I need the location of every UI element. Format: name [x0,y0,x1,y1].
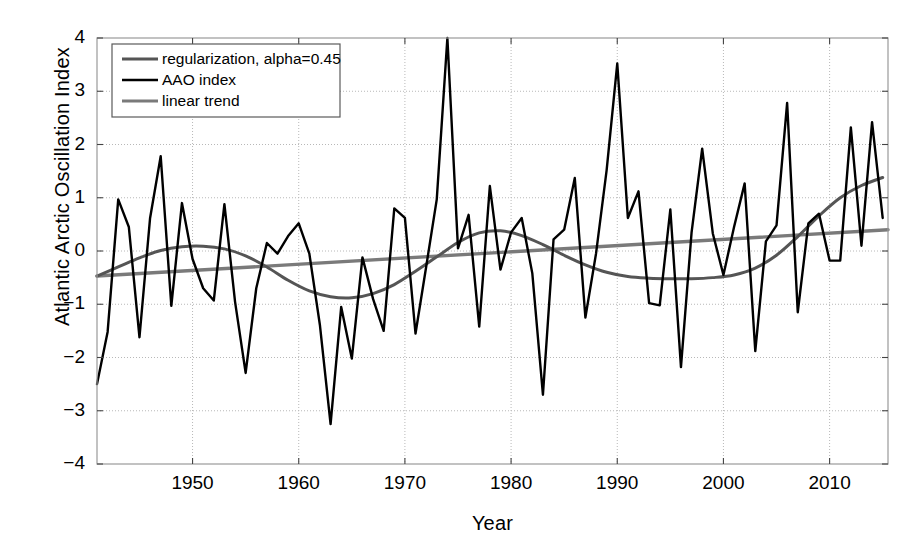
x-tick-label: 1980 [471,472,551,494]
y-tick-label: 2 [45,133,85,155]
y-tick-label: −3 [45,399,85,421]
legend-entry-label: linear trend [162,92,240,110]
legend-entry-label: AAO index [162,71,236,89]
x-tick-label: 2000 [683,472,763,494]
y-tick-label: 4 [45,26,85,48]
x-tick-label: 1960 [259,472,339,494]
plot-canvas [0,0,921,551]
y-tick-label: −1 [45,292,85,314]
y-tick-label: −4 [45,452,85,474]
x-axis-label: Year [472,512,513,534]
x-tick-label: 1990 [577,472,657,494]
x-tick-label: 1970 [365,472,445,494]
legend-entry-label: regularization, alpha=0.45 [162,50,341,68]
y-tick-label: −2 [45,346,85,368]
y-tick-label: 1 [45,186,85,208]
y-tick-label: 3 [45,79,85,101]
x-tick-label: 1950 [153,472,233,494]
chart-figure: Atlantic Arctic Oscillation Index Year −… [0,0,921,551]
x-axis-label-wrapper: Year [97,512,888,535]
x-tick-label: 2010 [790,472,870,494]
y-tick-label: 0 [45,239,85,261]
